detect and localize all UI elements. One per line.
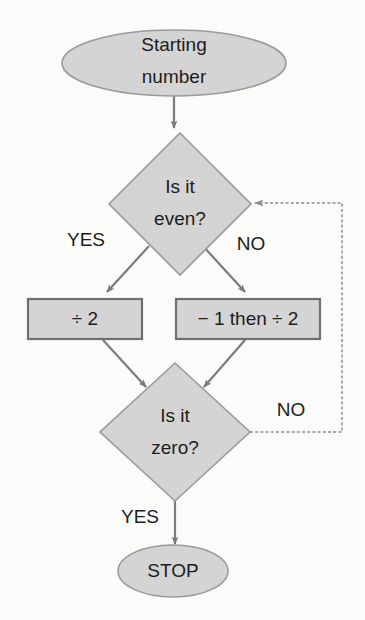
edge-label-even-no: NO [237,233,266,254]
node-decision-even-label-line1: Is it [165,176,195,197]
edge-minus-one-to-zero [204,340,245,387]
edge-label-even-yes: YES [67,229,105,250]
node-process-minus-one-label: − 1 then ÷ 2 [198,308,299,329]
edge-label-zero-no: NO [277,399,306,420]
edge-even-yes-to-halve [107,246,149,292]
node-stop-label: STOP [147,560,198,581]
node-process-halve-label: ÷ 2 [72,308,98,329]
flowchart-canvas: Starting number Is it even? ÷ 2 − 1 then… [0,0,365,620]
edge-halve-to-zero [103,340,146,387]
flowchart-diagram: Starting number Is it even? ÷ 2 − 1 then… [0,0,365,620]
node-start-label-line2: number [142,66,207,87]
node-decision-even-label-line2: even? [154,208,206,229]
node-decision-even-shape [109,133,251,275]
edge-label-zero-yes: YES [121,506,159,527]
node-decision-zero-label-line1: Is it [160,405,190,426]
node-decision-zero-shape [100,363,250,501]
node-start-label-line1: Starting [141,34,206,55]
node-decision-zero-label-line2: zero? [151,437,199,458]
